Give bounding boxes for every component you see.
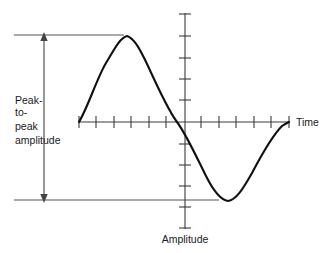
peak-to-peak-label: Peak- to- peak amplitude (15, 94, 61, 146)
waveform-figure: Time Amplitude Peak- to- peak amplitude (0, 0, 326, 253)
peak-to-peak-label-line3: peak (15, 120, 39, 132)
amplitude-axis (179, 13, 191, 229)
x-axis-label: Time (296, 116, 319, 128)
peak-to-peak-label-line1: Peak- (15, 94, 43, 106)
y-axis-label: Amplitude (162, 233, 209, 245)
peak-to-peak-label-line2: to- (15, 106, 28, 118)
arrow-head-up (40, 32, 47, 41)
arrow-head-down (40, 194, 47, 203)
peak-to-peak-label-line4: amplitude (15, 134, 61, 146)
waveform-svg: Time Amplitude Peak- to- peak amplitude (0, 0, 326, 253)
sine-waveform (79, 36, 289, 201)
peak-to-peak-arrow (40, 32, 47, 203)
